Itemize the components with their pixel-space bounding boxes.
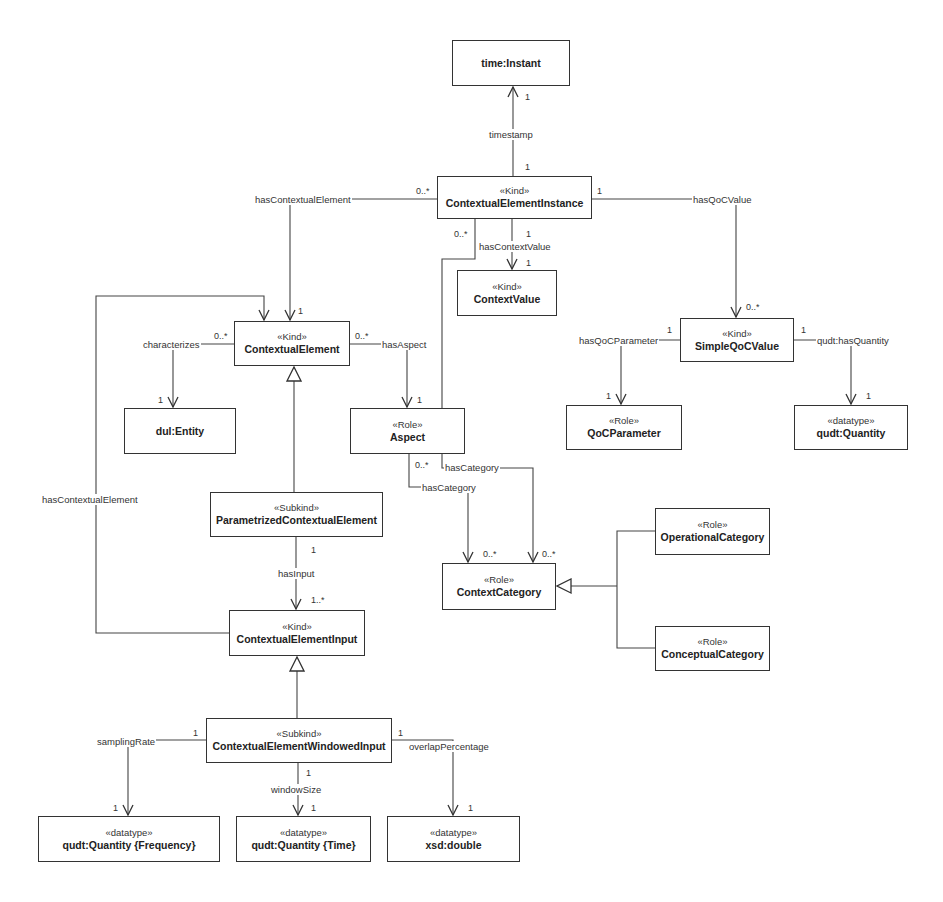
stereotype: «Kind» — [722, 328, 752, 340]
assoc-label-has-qoc-value: hasQoCValue — [692, 194, 752, 205]
class-operational-category: «Role» OperationalCategory — [655, 508, 770, 555]
class-name: qudt:Quantity {Time} — [251, 839, 355, 852]
mult-qudt-has-quantity-target: 1 — [866, 391, 871, 401]
mult-characterizes-target: 1 — [158, 395, 163, 405]
assoc-label-has-contextual-element-top: hasContextualElement — [254, 194, 352, 205]
mult-characterizes-source: 0..* — [214, 331, 228, 341]
class-name: time:Instant — [481, 57, 541, 70]
class-context-category: «Role» ContextCategory — [442, 563, 556, 610]
stereotype: «Role» — [609, 415, 639, 427]
mult-has-aspect-target: 1 — [417, 395, 422, 405]
class-name: qudt:Quantity — [817, 427, 886, 440]
assoc-label-overlap-percentage: overlapPercentage — [408, 741, 490, 752]
class-name: ParametrizedContextualElement — [216, 514, 377, 527]
class-name: ConceptualCategory — [661, 648, 764, 661]
mult-qudt-has-quantity-source: 1 — [801, 325, 806, 335]
mult-has-ce-top-target: 1 — [298, 306, 303, 316]
class-conceptual-category: «Role» ConceptualCategory — [655, 626, 770, 671]
stereotype: «datatype» — [827, 415, 874, 427]
class-time-instant: time:Instant — [452, 40, 570, 86]
mult-window-size-source: 1 — [306, 768, 311, 778]
stereotype: «Kind» — [282, 621, 312, 633]
mult-sampling-rate-target: 1 — [113, 803, 118, 813]
mult-has-aspect-source: 0..* — [355, 331, 369, 341]
class-aspect: «Role» Aspect — [350, 408, 465, 454]
mult-overlap-percentage-source: 1 — [398, 728, 403, 738]
stereotype: «Kind» — [500, 185, 530, 197]
mult-has-qoc-value-source: 1 — [597, 186, 602, 196]
mult-has-qoc-parameter-source: 1 — [667, 325, 672, 335]
mult-has-category-cei-target: 0..* — [542, 549, 556, 559]
stereotype: «datatype» — [430, 827, 477, 839]
class-qudt-quantity-frequency: «datatype» qudt:Quantity {Frequency} — [38, 816, 220, 862]
stereotype: «Kind» — [277, 331, 307, 343]
stereotype: «Role» — [392, 419, 422, 431]
uml-diagram-canvas: time:Instant «Kind» ContextualElementIns… — [0, 0, 943, 902]
class-name: QoCParameter — [587, 427, 661, 440]
class-name: ContextualElementWindowedInput — [212, 740, 385, 753]
class-qoc-parameter: «Role» QoCParameter — [566, 405, 682, 450]
mult-has-context-value-source: 1 — [526, 229, 531, 239]
mult-has-category-aspect-target: 0..* — [483, 549, 497, 559]
mult-has-context-value-target: 1 — [526, 258, 531, 268]
mult-window-size-target: 1 — [311, 803, 316, 813]
mult-has-input-source: 1 — [311, 545, 316, 555]
mult-has-ce-top-source: 0..* — [416, 186, 430, 196]
stereotype: «Role» — [697, 636, 727, 648]
assoc-label-has-input: hasInput — [277, 568, 315, 579]
assoc-label-has-qoc-parameter: hasQoCParameter — [578, 335, 659, 346]
mult-timestamp-target: 1 — [525, 92, 530, 102]
class-name: Aspect — [390, 431, 425, 444]
assoc-label-characterizes: characterizes — [142, 339, 201, 350]
class-contextual-element-input: «Kind» ContextualElementInput — [229, 610, 365, 656]
assoc-label-window-size: windowSize — [270, 784, 322, 795]
assoc-label-timestamp: timestamp — [488, 129, 534, 140]
class-name: xsd:double — [425, 839, 481, 852]
assoc-label-has-contextual-element-left: hasContextualElement — [41, 494, 139, 505]
class-contextual-element-instance: «Kind» ContextualElementInstance — [437, 176, 592, 219]
assoc-label-has-aspect: hasAspect — [381, 339, 427, 350]
class-name: ContextualElementInstance — [446, 197, 584, 210]
class-name: ContextualElement — [244, 343, 339, 356]
class-simple-qoc-value: «Kind» SimpleQoCValue — [680, 318, 794, 362]
stereotype: «datatype» — [280, 827, 327, 839]
class-name: ContextualElementInput — [237, 633, 358, 646]
class-name: SimpleQoCValue — [695, 340, 779, 353]
class-xsd-double: «datatype» xsd:double — [387, 816, 520, 862]
class-name: ContextValue — [474, 293, 541, 306]
assoc-label-has-category-aspect: hasCategory — [421, 482, 477, 493]
stereotype: «datatype» — [105, 827, 152, 839]
assoc-label-sampling-rate: samplingRate — [96, 736, 156, 747]
mult-has-category-aspect-source: 0..* — [415, 460, 429, 470]
class-contextual-element: «Kind» ContextualElement — [234, 321, 350, 366]
mult-overlap-percentage-target: 1 — [468, 803, 473, 813]
class-dul-entity: dul:Entity — [124, 408, 236, 454]
stereotype: «Subkind» — [274, 502, 319, 514]
class-name: OperationalCategory — [661, 531, 765, 544]
class-name: ContextCategory — [457, 586, 542, 599]
stereotype: «Role» — [484, 574, 514, 586]
class-name: qudt:Quantity {Frequency} — [62, 839, 195, 852]
mult-sampling-rate-source: 1 — [193, 728, 198, 738]
mult-has-qoc-value-target: 0..* — [746, 302, 760, 312]
class-name: dul:Entity — [156, 425, 204, 438]
class-context-value: «Kind» ContextValue — [457, 270, 557, 316]
stereotype: «Subkind» — [277, 728, 322, 740]
assoc-label-has-context-value: hasContextValue — [478, 241, 552, 252]
class-qudt-quantity-time: «datatype» qudt:Quantity {Time} — [236, 816, 371, 862]
mult-has-input-target: 1..* — [311, 595, 325, 605]
class-contextual-element-windowed-input: «Subkind» ContextualElementWindowedInput — [206, 718, 392, 763]
assoc-label-qudt-has-quantity: qudt:hasQuantity — [816, 335, 890, 346]
assoc-label-has-category-cei: hasCategory — [444, 462, 500, 473]
mult-has-qoc-parameter-target: 1 — [606, 391, 611, 401]
stereotype: «Role» — [697, 519, 727, 531]
mult-has-category-cei-source: 0..* — [454, 229, 468, 239]
class-qudt-quantity: «datatype» qudt:Quantity — [794, 405, 908, 450]
stereotype: «Kind» — [492, 281, 522, 293]
mult-timestamp-source: 1 — [525, 162, 530, 172]
class-parametrized-contextual-element: «Subkind» ParametrizedContextualElement — [210, 492, 383, 537]
